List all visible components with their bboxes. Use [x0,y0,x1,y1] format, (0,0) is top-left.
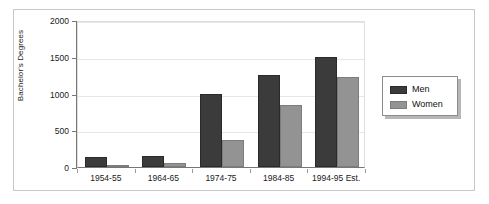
bar-women-1984-85[interactable] [280,105,302,167]
bar-women-1994-95-est-[interactable] [337,77,359,167]
bar-men-1984-85[interactable] [258,75,280,167]
chart-figure: Bachelor's Degrees 0500100015002000 MenW… [0,0,489,204]
y-axis-tick-mark [72,21,77,22]
y-axis-tick-label: 500 [55,127,69,136]
y-axis-title: Bachelor's Degrees [16,16,25,116]
y-axis-tick-label: 1000 [50,91,69,100]
legend-swatch-women [390,101,407,109]
legend-label: Women [412,100,443,109]
bar-women-1974-75[interactable] [222,140,244,167]
y-axis-tick-label: 2000 [50,17,69,26]
bar-men-1994-95-est-[interactable] [315,57,337,167]
x-axis-tick-label: 1994-95 Est. [296,173,376,183]
y-axis-tick-mark [72,131,77,132]
chart-legend[interactable]: MenWomen [382,76,458,116]
legend-item-women[interactable]: Women [390,100,443,109]
y-axis-tick-label: 0 [64,164,69,173]
plot-area [77,21,365,168]
legend-label: Men [412,85,430,94]
y-axis-tick-mark [72,95,77,96]
legend-swatch-men [390,86,407,94]
gridline [78,22,364,23]
bar-men-1964-65[interactable] [142,156,164,167]
bar-men-1954-55[interactable] [85,157,107,167]
y-axis-tick-label: 1500 [50,54,69,63]
legend-item-men[interactable]: Men [390,85,430,94]
bar-women-1964-65[interactable] [164,163,186,167]
bar-men-1974-75[interactable] [200,94,222,168]
bar-women-1954-55[interactable] [107,165,129,167]
y-axis-tick-mark [72,58,77,59]
y-axis-tick-labels: 0500100015002000 [32,0,69,204]
x-axis-tick-mark [365,169,366,173]
